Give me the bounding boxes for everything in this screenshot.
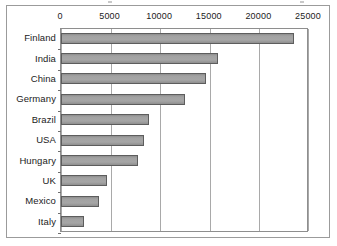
bar (61, 175, 107, 186)
bar (61, 114, 149, 125)
category-label: UK (43, 175, 56, 186)
y-axis-tick-mark (58, 192, 61, 193)
category-label: Germany (16, 93, 56, 104)
bar (61, 155, 138, 166)
y-axis-tick-mark (58, 131, 61, 132)
bar (61, 196, 99, 207)
y-axis-tick-mark (58, 90, 61, 91)
category-label: Mexico (25, 195, 56, 206)
y-axis-tick-mark (58, 151, 61, 152)
bar (61, 33, 294, 44)
bar-row (61, 29, 307, 49)
category-label: USA (36, 134, 56, 145)
category-label: India (35, 53, 56, 64)
y-axis-tick-mark (58, 172, 61, 173)
bar (61, 53, 218, 64)
x-axis-tick-label: 15000 (187, 11, 231, 21)
y-axis-tick-mark (58, 111, 61, 112)
bar (61, 94, 185, 105)
bar-row (61, 213, 307, 233)
bar (61, 73, 206, 84)
y-axis-tick-mark (58, 49, 61, 50)
bar-row (61, 49, 307, 69)
bar-row (61, 90, 307, 110)
bar-row (61, 111, 307, 131)
gridline (308, 29, 309, 231)
y-axis-tick-mark (58, 233, 61, 234)
x-axis-tick-label: 25000 (286, 11, 330, 21)
bar (61, 216, 84, 227)
bar-row (61, 192, 307, 212)
x-axis-tick-label: 5000 (88, 11, 132, 21)
bar (61, 135, 144, 146)
bar-row (61, 70, 307, 90)
x-axis-tick-label: 10000 (137, 11, 181, 21)
category-label: Italy (38, 216, 56, 227)
x-axis-tick-label: 20000 (236, 11, 280, 21)
category-label: Brazil (32, 114, 56, 125)
category-label: China (31, 73, 56, 84)
plot-area (60, 28, 308, 232)
bar-row (61, 151, 307, 171)
category-label: Hungary (19, 155, 56, 166)
bar-row (61, 131, 307, 151)
category-label: Finland (24, 32, 56, 43)
y-axis-tick-mark (58, 70, 61, 71)
bar-row (61, 172, 307, 192)
y-axis-tick-mark (58, 213, 61, 214)
horizontal-bar-chart: 0500010000150002000025000 FinlandIndiaCh… (0, 0, 337, 246)
x-axis-tick-label: 0 (38, 11, 82, 21)
